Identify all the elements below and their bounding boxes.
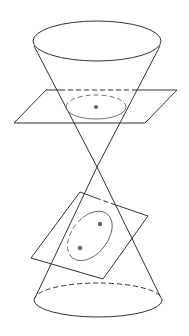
- upper-cone-rim: [33, 21, 161, 61]
- horizontal-plane: [14, 90, 177, 123]
- ellipse-focus-upper: [98, 222, 102, 226]
- ellipse-focus-lower: [78, 246, 82, 250]
- lower-cone-rim-back: [34, 283, 162, 300]
- lower-cone-rim-front: [34, 300, 162, 317]
- tilted-plane-left-edge: [31, 192, 80, 258]
- lower-cone-left-edge: [35, 167, 97, 298]
- lower-cone: [34, 167, 162, 317]
- horizontal-plane-left-edge: [14, 90, 46, 123]
- upper-cone-right-edge: [97, 46, 160, 167]
- ellipse-section-front: [59, 203, 121, 269]
- lower-cone-right-edge: [97, 167, 161, 298]
- tilted-plane-hidden-edge: [96, 198, 113, 204]
- upper-cone: [33, 21, 161, 167]
- circle-center-point: [94, 105, 98, 109]
- tilted-plane-bottom-edge: [31, 258, 103, 279]
- upper-cone-left-edge: [34, 46, 97, 167]
- conic-sections-diagram: [0, 0, 189, 336]
- horizontal-plane-right-edge: [145, 90, 177, 123]
